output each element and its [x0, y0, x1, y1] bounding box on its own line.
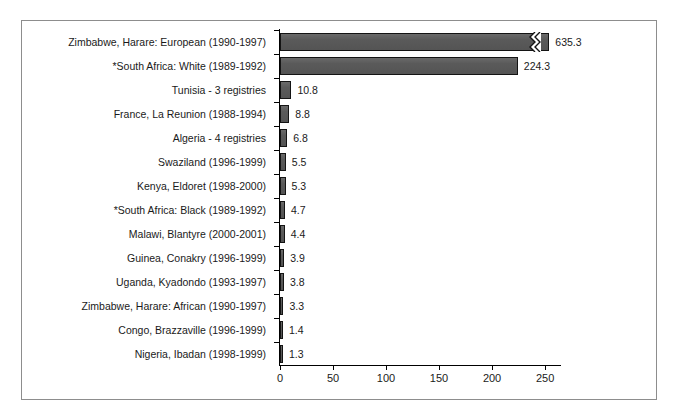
x-axis-tick-label: 150 [419, 372, 459, 384]
category-tick [274, 54, 279, 55]
bar-row[interactable]: Kenya, Eldoret (1998-2000)5.3 [22, 174, 656, 198]
category-tick [274, 174, 279, 175]
bar-chart-plot: Zimbabwe, Harare: European (1990-1997)63… [22, 21, 656, 399]
bar-container: 4.4 [280, 225, 285, 243]
bar[interactable] [280, 57, 518, 75]
bar-container: 635.3 [280, 33, 549, 51]
bar-category-label: Congo, Brazzaville (1996-1999) [26, 318, 266, 342]
bar-value-label: 3.8 [284, 273, 305, 291]
category-tick [274, 318, 279, 319]
bar-value-label: 3.3 [283, 297, 304, 315]
bar[interactable] [280, 33, 549, 51]
x-axis-tick-label: 0 [260, 372, 300, 384]
bar-row[interactable]: Algeria - 4 registries6.8 [22, 126, 656, 150]
category-tick [274, 102, 279, 103]
chart-figure: Zimbabwe, Harare: European (1990-1997)63… [21, 20, 657, 400]
bar-category-label: Algeria - 4 registries [26, 126, 266, 150]
bar-row[interactable]: France, La Reunion (1988-1994)8.8 [22, 102, 656, 126]
bar[interactable] [280, 129, 287, 147]
bar-value-label: 6.8 [287, 129, 308, 147]
x-axis-tick-label: 200 [472, 372, 512, 384]
bar-category-label: France, La Reunion (1988-1994) [26, 102, 266, 126]
bar-container: 6.8 [280, 129, 287, 147]
category-tick [274, 30, 279, 31]
bar-row[interactable]: Zimbabwe, Harare: African (1990-1997)3.3 [22, 294, 656, 318]
bar-value-label: 4.4 [285, 225, 306, 243]
bar-row[interactable]: Swaziland (1996-1999)5.5 [22, 150, 656, 174]
bar-category-label: Zimbabwe, Harare: European (1990-1997) [26, 30, 266, 54]
x-axis-tick-label: 50 [313, 372, 353, 384]
bar-category-label: Uganda, Kyadondo (1993-1997) [26, 270, 266, 294]
bar-container: 10.8 [280, 81, 291, 99]
x-axis-tick [333, 365, 334, 370]
bar-row[interactable]: Tunisia - 3 registries10.8 [22, 78, 656, 102]
bar-row[interactable]: Uganda, Kyadondo (1993-1997)3.8 [22, 270, 656, 294]
bar-category-label: Malawi, Blantyre (2000-2001) [26, 222, 266, 246]
category-tick [274, 270, 279, 271]
bar-category-label: Tunisia - 3 registries [26, 78, 266, 102]
category-tick [274, 222, 279, 223]
bar-container: 5.5 [280, 153, 286, 171]
bar[interactable] [280, 105, 289, 123]
bar-container: 1.3 [280, 345, 283, 363]
bar-row[interactable]: Congo, Brazzaville (1996-1999)1.4 [22, 318, 656, 342]
category-tick [274, 126, 279, 127]
x-axis-tick-label: 100 [366, 372, 406, 384]
bar-category-label: *South Africa: White (1989-1992) [26, 54, 266, 78]
x-axis-tick-label: 250 [525, 372, 565, 384]
bar-container: 224.3 [280, 57, 518, 75]
bar-container: 3.9 [280, 249, 284, 267]
bar-container: 3.3 [280, 297, 283, 315]
bar-value-label: 3.9 [284, 249, 305, 267]
bar-value-label: 1.4 [283, 321, 304, 339]
bar-category-label: Zimbabwe, Harare: African (1990-1997) [26, 294, 266, 318]
bar-value-label: 1.3 [283, 345, 304, 363]
bar-value-label: 5.5 [286, 153, 307, 171]
bar-row[interactable]: Guinea, Conakry (1996-1999)3.9 [22, 246, 656, 270]
bar-value-label: 224.3 [518, 57, 550, 75]
category-tick [274, 294, 279, 295]
bar-value-label: 10.8 [291, 81, 317, 99]
x-axis-tick [545, 365, 546, 370]
bar-value-label: 5.3 [286, 177, 307, 195]
bar-value-label: 8.8 [289, 105, 310, 123]
category-tick [274, 198, 279, 199]
bar[interactable] [280, 81, 291, 99]
bar-category-label: Guinea, Conakry (1996-1999) [26, 246, 266, 270]
x-axis-tick [439, 365, 440, 370]
x-axis-tick [492, 365, 493, 370]
bar-category-label: Kenya, Eldoret (1998-2000) [26, 174, 266, 198]
bar-container: 1.4 [280, 321, 283, 339]
category-tick [274, 342, 279, 343]
x-axis-tick [386, 365, 387, 370]
bar-container: 5.3 [280, 177, 286, 195]
bar-category-label: Nigeria, Ibadan (1998-1999) [26, 342, 266, 366]
bar-category-label: Swaziland (1996-1999) [26, 150, 266, 174]
bar-value-label: 635.3 [549, 33, 581, 51]
bar-container: 3.8 [280, 273, 284, 291]
category-tick [274, 78, 279, 79]
bar-container: 8.8 [280, 105, 289, 123]
category-tick [274, 150, 279, 151]
bar-row[interactable]: Malawi, Blantyre (2000-2001)4.4 [22, 222, 656, 246]
bar-row[interactable]: *South Africa: Black (1989-1992)4.7 [22, 198, 656, 222]
bar-container: 4.7 [280, 201, 285, 219]
bar-value-label: 4.7 [285, 201, 306, 219]
bar-row[interactable]: *South Africa: White (1989-1992)224.3 [22, 54, 656, 78]
bar-category-label: *South Africa: Black (1989-1992) [26, 198, 266, 222]
x-axis-tick [280, 365, 281, 370]
category-tick [274, 246, 279, 247]
bar-row[interactable]: Zimbabwe, Harare: European (1990-1997)63… [22, 30, 656, 54]
bar-row[interactable]: Nigeria, Ibadan (1998-1999)1.3 [22, 342, 656, 366]
